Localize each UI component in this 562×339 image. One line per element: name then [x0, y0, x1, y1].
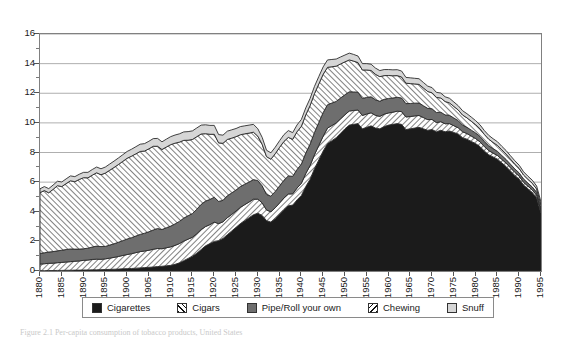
x-tick-label: 1885	[56, 277, 66, 298]
stacked-area-chart	[40, 34, 541, 271]
legend-item-chewing[interactable]: Chewing	[368, 303, 420, 313]
x-tick-mark	[322, 272, 323, 276]
x-tick-mark	[104, 272, 105, 276]
x-tick-label: 1960	[383, 277, 393, 298]
x-tick-mark	[279, 272, 280, 276]
x-tick-mark	[61, 272, 62, 276]
x-tick-label: 1880	[34, 277, 44, 298]
x-tick-label: 1895	[99, 277, 109, 298]
cigars-swatch	[177, 303, 187, 313]
x-tick-label: 1925	[230, 277, 240, 298]
x-tick-mark	[148, 272, 149, 276]
x-tick-label: 1945	[317, 277, 327, 298]
x-tick-label: 1995	[535, 277, 545, 298]
x-tick-mark	[496, 272, 497, 276]
x-tick-mark	[388, 272, 389, 276]
x-tick-label: 1915	[186, 277, 196, 298]
pipe-swatch	[247, 303, 257, 313]
x-tick-label: 1990	[513, 277, 523, 298]
x-tick-mark	[366, 272, 367, 276]
figure-root: 0246810121416 18801885189018951900190519…	[0, 0, 562, 339]
legend-label: Cigars	[192, 303, 219, 313]
legend-item-cigarettes[interactable]: Cigarettes	[92, 303, 150, 313]
x-tick-label: 1910	[165, 277, 175, 298]
x-tick-mark	[39, 272, 40, 276]
legend-label: Pipe/Roll your own	[262, 303, 341, 313]
x-tick-mark	[191, 272, 192, 276]
x-tick-label: 1940	[295, 277, 305, 298]
legend-label: Chewing	[383, 303, 420, 313]
x-tick-label: 1930	[252, 277, 262, 298]
y-tick-label: 4	[5, 206, 35, 216]
legend-label: Cigarettes	[107, 303, 150, 313]
y-axis: 0246810121416	[0, 0, 35, 300]
x-tick-mark	[235, 272, 236, 276]
x-tick-label: 1950	[339, 277, 349, 298]
x-tick-label: 1985	[491, 277, 501, 298]
y-tick-label: 8	[5, 147, 35, 157]
x-tick-label: 1905	[143, 277, 153, 298]
x-tick-label: 1965	[404, 277, 414, 298]
x-tick-label: 1975	[448, 277, 458, 298]
x-tick-mark	[409, 272, 410, 276]
x-tick-label: 1980	[470, 277, 480, 298]
x-tick-mark	[300, 272, 301, 276]
legend-item-snuff[interactable]: Snuff	[447, 303, 484, 313]
x-tick-label: 1890	[78, 277, 88, 298]
y-tick-label: 6	[5, 176, 35, 186]
x-tick-mark	[518, 272, 519, 276]
x-tick-mark	[431, 272, 432, 276]
x-tick-mark	[213, 272, 214, 276]
x-tick-mark	[126, 272, 127, 276]
x-tick-label: 1955	[361, 277, 371, 298]
x-tick-label: 1900	[121, 277, 131, 298]
legend-label: Snuff	[462, 303, 484, 313]
y-tick-label: 10	[5, 117, 35, 127]
x-tick-mark	[540, 272, 541, 276]
y-tick-label: 0	[5, 265, 35, 275]
y-tick-label: 12	[5, 87, 35, 97]
x-tick-label: 1920	[208, 277, 218, 298]
x-tick-label: 1935	[274, 277, 284, 298]
snuff-swatch	[447, 303, 457, 313]
x-tick-mark	[257, 272, 258, 276]
plot-area	[39, 33, 542, 272]
y-tick-label: 16	[5, 28, 35, 38]
chart-legend: CigarettesCigarsPipe/Roll your ownChewin…	[82, 297, 494, 318]
figure-caption: Figure 2.1 Per-capita consumption of tob…	[20, 328, 550, 337]
cigarettes-swatch	[92, 303, 102, 313]
y-tick-label: 14	[5, 58, 35, 68]
x-tick-mark	[83, 272, 84, 276]
legend-item-cigars[interactable]: Cigars	[177, 303, 219, 313]
y-tick-label: 2	[5, 235, 35, 245]
x-tick-mark	[453, 272, 454, 276]
legend-item-pipe-roll-your-own[interactable]: Pipe/Roll your own	[247, 303, 341, 313]
x-tick-mark	[344, 272, 345, 276]
x-tick-label: 1970	[426, 277, 436, 298]
chewing-swatch	[368, 303, 378, 313]
x-tick-mark	[170, 272, 171, 276]
x-tick-mark	[475, 272, 476, 276]
